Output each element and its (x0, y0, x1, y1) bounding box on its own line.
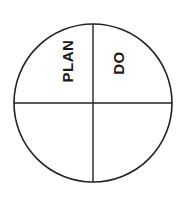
quadrant-label-do: DO (111, 51, 126, 75)
quadrant-label-plan: PLAN (60, 40, 75, 83)
quadrant-circle-graphic (0, 0, 183, 203)
pdca-cycle-diagram: PLAN DO (0, 0, 183, 203)
